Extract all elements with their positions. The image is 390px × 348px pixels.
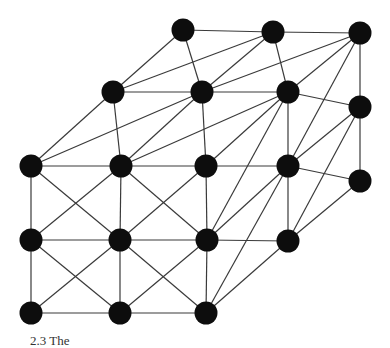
node-F12 <box>196 229 219 252</box>
edge-T0-T1 <box>183 30 273 32</box>
edge-M1-T1 <box>202 32 273 92</box>
node-F20 <box>20 302 43 325</box>
node-F13 <box>277 230 300 253</box>
edge-layer <box>31 30 360 313</box>
edge-F13-F22 <box>206 241 288 313</box>
node-M0 <box>102 81 125 104</box>
edge-F01-M1 <box>121 92 202 166</box>
node-F03 <box>277 155 300 178</box>
edge-F12-F13 <box>207 240 288 241</box>
node-F00 <box>20 155 43 178</box>
node-M2 <box>277 81 300 104</box>
edge-F13-R1 <box>288 181 360 241</box>
edge-F02-M2 <box>206 92 288 166</box>
edge-F03-T2 <box>288 33 360 166</box>
node-T2 <box>349 22 372 45</box>
edge-F03-R0 <box>288 107 360 166</box>
edge-F00-M0 <box>31 92 113 166</box>
node-F01 <box>110 155 133 178</box>
node-M1 <box>191 81 214 104</box>
node-R1 <box>349 170 372 193</box>
node-T1 <box>262 21 285 44</box>
edge-F01-F12 <box>121 166 207 240</box>
edge-T1-T2 <box>273 32 360 33</box>
edge-M2-T2 <box>288 33 360 92</box>
node-F22 <box>195 302 218 325</box>
edge-F02-F11 <box>120 166 206 240</box>
edge-F03-F12 <box>207 166 288 240</box>
node-F02 <box>195 155 218 178</box>
figure-caption: 2.3 The <box>30 334 69 347</box>
node-F10 <box>20 229 43 252</box>
node-F11 <box>109 229 132 252</box>
edge-M0-T0 <box>113 30 183 92</box>
node-F21 <box>109 302 132 325</box>
node-R0 <box>349 96 372 119</box>
node-T0 <box>172 19 195 42</box>
